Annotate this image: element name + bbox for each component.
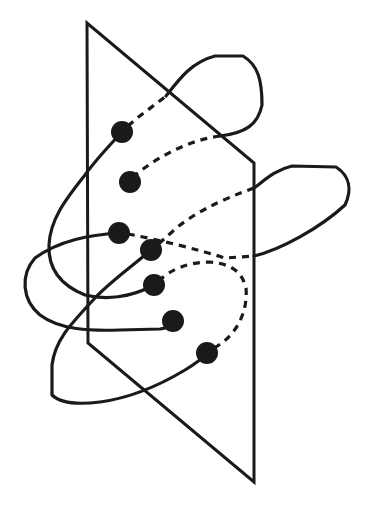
- dot-5: [143, 274, 165, 296]
- strand-b-hidden-2: [156, 188, 254, 246]
- dot-3: [108, 222, 130, 244]
- diagram-canvas: [0, 0, 366, 507]
- strand-a-hidden-2: [134, 136, 220, 176]
- dot-7: [196, 342, 218, 364]
- dot-1: [111, 121, 133, 143]
- dot-6: [162, 310, 184, 332]
- strand-a-hidden-1: [128, 96, 166, 126]
- dot-2: [119, 171, 141, 193]
- dot-4: [140, 239, 162, 261]
- braid-plane-diagram: [0, 0, 366, 507]
- strand-b-loop-right: [254, 166, 349, 256]
- strand-a-loop-top: [166, 56, 262, 136]
- strand-c-front: [52, 250, 207, 403]
- strand-a-front: [49, 132, 154, 298]
- strand-c-hidden: [160, 262, 246, 348]
